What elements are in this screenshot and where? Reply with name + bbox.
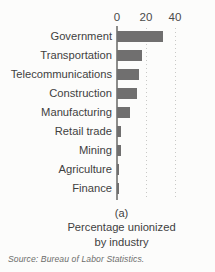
bar-government [117, 31, 163, 42]
bar-row: Agriculture [0, 161, 215, 180]
bar-manufacturing [117, 107, 130, 118]
bar-row: Transportation [0, 47, 215, 66]
source-note: Source: Bureau of Labor Statistics. [8, 254, 144, 264]
category-label-construction: Construction [0, 87, 112, 100]
caption-line-1: Percentage unionized [28, 220, 215, 235]
bar-mining [117, 145, 121, 156]
bar-row: Government [0, 28, 215, 47]
x-axis-tick-labels: 0 20 40 [0, 11, 215, 25]
bar-row: Manufacturing [0, 104, 215, 123]
category-label-finance: Finance [0, 182, 112, 195]
figure-caption: (a) Percentage unionized by industry [0, 206, 215, 249]
bar-chart-plot: 0 20 40 GovernmentTransportationTelecomm… [0, 0, 215, 205]
category-label-transportation: Transportation [0, 49, 112, 62]
x-tick-label-40: 40 [155, 11, 195, 23]
bar-retail-trade [117, 126, 121, 137]
bar-transportation [117, 50, 142, 61]
bar-row: Construction [0, 85, 215, 104]
figure-panel: 0 20 40 GovernmentTransportationTelecomm… [0, 0, 215, 272]
bar-construction [117, 88, 137, 99]
category-label-mining: Mining [0, 144, 112, 157]
bar-agriculture [117, 164, 119, 175]
bar-finance [117, 183, 119, 194]
category-label-government: Government [0, 30, 112, 43]
bar-row: Mining [0, 142, 215, 161]
category-label-agriculture: Agriculture [0, 163, 112, 176]
caption-line-2: by industry [28, 235, 215, 250]
bar-row: Finance [0, 180, 215, 199]
category-label-telecommunications: Telecommunications [0, 68, 112, 81]
category-label-retail-trade: Retail trade [0, 125, 112, 138]
bar-row: Telecommunications [0, 66, 215, 85]
bar-row: Retail trade [0, 123, 215, 142]
category-label-manufacturing: Manufacturing [0, 106, 112, 119]
bar-telecommunications [117, 69, 139, 80]
caption-index: (a) [28, 206, 215, 220]
